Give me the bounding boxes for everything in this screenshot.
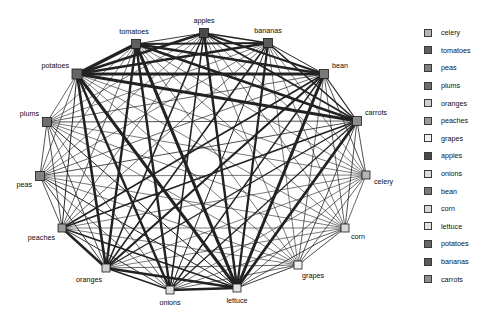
legend-item-label: peas xyxy=(441,64,457,71)
legend-item-lettuce[interactable]: lettuce xyxy=(424,218,494,236)
legend-swatch-icon xyxy=(424,258,432,266)
graph-node-label-onions: onions xyxy=(159,298,181,307)
graph-node-label-carrots: carrots xyxy=(365,108,387,117)
graph-node-label-oranges: oranges xyxy=(76,275,102,284)
legend-swatch-icon xyxy=(424,222,432,230)
graph-edge xyxy=(40,176,170,290)
legend-swatch-icon xyxy=(424,240,432,248)
legend-swatch-icon xyxy=(424,117,432,125)
graph-node-onions[interactable] xyxy=(166,286,174,294)
graph-node-apples[interactable] xyxy=(200,29,209,38)
graph-node-label-apples: apples xyxy=(193,16,215,25)
graph-node-bananas[interactable] xyxy=(264,39,273,48)
legend-item-label: carrots xyxy=(441,276,463,283)
graph-node-carrots[interactable] xyxy=(353,117,362,126)
graph-node-oranges[interactable] xyxy=(102,264,110,272)
legend-item-bean[interactable]: bean xyxy=(424,182,494,200)
legend-item-label: potatoes xyxy=(441,240,469,247)
legend-item-label: bananas xyxy=(441,258,469,265)
graph-node-label-tomatoes: tomatoes xyxy=(119,27,149,36)
legend-item-grapes[interactable]: grapes xyxy=(424,130,494,148)
legend-item-label: peaches xyxy=(441,117,468,124)
legend-item-label: tomatoes xyxy=(441,47,471,54)
legend-swatch-icon xyxy=(424,64,432,72)
graph-node-tomatoes[interactable] xyxy=(132,40,141,49)
legend-swatch-icon xyxy=(424,152,432,160)
graph-node-plums[interactable] xyxy=(43,118,52,127)
graph-node-potatoes[interactable] xyxy=(72,69,82,79)
legend-item-carrots[interactable]: carrots xyxy=(424,270,494,288)
node-labels-group: applesbananasbeancarrotscelerycorngrapes… xyxy=(16,16,393,307)
legend-swatch-icon xyxy=(424,170,432,178)
graph-node-label-celery: celery xyxy=(374,177,394,186)
legend-item-oranges[interactable]: oranges xyxy=(424,94,494,112)
legend-item-tomatoes[interactable]: tomatoes xyxy=(424,42,494,60)
edges-group xyxy=(40,33,366,290)
graph-edge xyxy=(204,33,366,175)
legend-item-celery[interactable]: celery xyxy=(424,24,494,42)
graph-edge xyxy=(136,44,298,265)
legend-item-bananas[interactable]: bananas xyxy=(424,253,494,271)
graph-node-lettuce[interactable] xyxy=(233,284,241,292)
legend-swatch-icon xyxy=(424,187,432,195)
graph-node-peaches[interactable] xyxy=(58,224,66,232)
legend-item-onions[interactable]: onions xyxy=(424,165,494,183)
legend-item-label: bean xyxy=(441,188,457,195)
figure-root: applesbananasbeancarrotscelerycorngrapes… xyxy=(0,0,497,321)
legend-swatch-icon xyxy=(424,46,432,54)
legend-item-plums[interactable]: plums xyxy=(424,77,494,95)
graph-node-label-peas: peas xyxy=(16,180,32,189)
graph-node-celery[interactable] xyxy=(362,171,370,179)
network-graph-svg: applesbananasbeancarrotscelerycorngrapes… xyxy=(0,0,415,321)
graph-node-peas[interactable] xyxy=(36,172,45,181)
graph-node-corn[interactable] xyxy=(341,224,349,232)
graph-node-label-grapes: grapes xyxy=(302,271,324,280)
network-graph-panel: applesbananasbeancarrotscelerycorngrapes… xyxy=(0,0,415,321)
graph-edge xyxy=(47,122,62,228)
legend-swatch-icon xyxy=(424,205,432,213)
graph-node-label-bean: bean xyxy=(332,61,348,70)
legend-item-corn[interactable]: corn xyxy=(424,200,494,218)
graph-node-label-bananas: bananas xyxy=(254,26,282,35)
graph-node-label-peaches: peaches xyxy=(28,233,56,242)
graph-edge xyxy=(268,43,298,265)
graph-node-bean[interactable] xyxy=(320,70,329,79)
legend-item-label: celery xyxy=(441,29,460,36)
legend-item-label: plums xyxy=(441,82,460,89)
graph-edge xyxy=(106,44,136,268)
graph-node-grapes[interactable] xyxy=(294,261,302,269)
graph-node-label-corn: corn xyxy=(351,232,365,241)
graph-node-label-potatoes: potatoes xyxy=(41,61,69,70)
legend-swatch-icon xyxy=(424,275,432,283)
graph-edge xyxy=(62,74,77,228)
legend-item-label: apples xyxy=(441,152,462,159)
graph-node-label-lettuce: lettuce xyxy=(226,296,247,305)
legend-item-potatoes[interactable]: potatoes xyxy=(424,235,494,253)
legend-swatch-icon xyxy=(424,99,432,107)
legend-swatch-icon xyxy=(424,134,432,142)
graph-node-label-plums: plums xyxy=(20,109,40,118)
legend-swatch-icon xyxy=(424,29,432,37)
legend-swatch-icon xyxy=(424,82,432,90)
legend-item-peaches[interactable]: peaches xyxy=(424,112,494,130)
graph-edge xyxy=(357,121,366,175)
legend-item-label: oranges xyxy=(441,100,467,107)
legend-item-label: lettuce xyxy=(441,223,462,230)
legend-item-label: corn xyxy=(441,205,455,212)
graph-edge xyxy=(47,121,357,122)
legend-item-peas[interactable]: peas xyxy=(424,59,494,77)
legend-item-apples[interactable]: apples xyxy=(424,147,494,165)
legend-item-label: grapes xyxy=(441,135,463,142)
legend-panel: celerytomatoespeasplumsorangespeachesgra… xyxy=(424,24,494,304)
legend-item-label: onions xyxy=(441,170,462,177)
graph-edge xyxy=(47,122,366,175)
